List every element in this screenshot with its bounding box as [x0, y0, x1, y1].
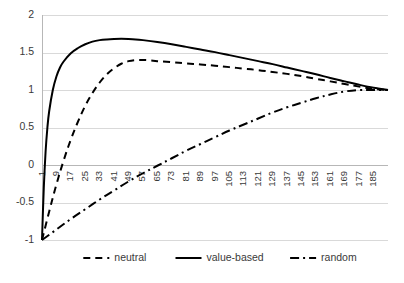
chart-container: 21.510.50-0.5-1 191725334149576573818997… [0, 0, 404, 283]
y-tick-label: -0.5 [16, 195, 34, 207]
x-tick-label: 17 [64, 171, 75, 182]
x-tick-label: 137 [281, 171, 292, 187]
legend-item-value-based[interactable]: value-based [176, 251, 264, 263]
legend-item-neutral[interactable]: neutral [83, 251, 146, 263]
x-tick-label: 41 [108, 171, 119, 182]
y-tick-label: 1.5 [19, 45, 34, 57]
line-chart: 21.510.50-0.5-1 191725334149576573818997… [0, 0, 404, 283]
x-tick-label: 73 [165, 171, 176, 182]
x-tick-label: 33 [93, 171, 104, 182]
gridlines-group [42, 16, 388, 241]
y-tick-label: 0 [28, 158, 34, 170]
x-tick-label: 177 [353, 171, 364, 187]
x-tick-label: 145 [295, 171, 306, 187]
x-tick-label: 169 [338, 171, 349, 187]
axes-group [42, 15, 388, 240]
x-tick-label: 81 [180, 171, 191, 182]
x-axis-tick-labels: 1917253341495765738189971051131211291371… [36, 171, 379, 187]
y-tick-label: -1 [25, 233, 34, 245]
legend-label-value-based: value-based [207, 251, 264, 263]
x-tick-label: 49 [122, 171, 133, 182]
x-tick-label: 97 [209, 171, 220, 182]
x-tick-label: 121 [252, 171, 263, 187]
x-tick-label: 105 [223, 171, 234, 187]
x-tick-label: 89 [194, 171, 205, 182]
x-tick-label: 65 [151, 171, 162, 182]
y-tick-label: 1 [28, 83, 34, 95]
x-tick-label: 25 [79, 171, 90, 182]
legend: neutralvalue-basedrandom [83, 251, 357, 263]
x-tick-label: 185 [367, 171, 378, 187]
series-line-value-based [42, 39, 388, 240]
y-axis-tick-labels: 21.510.50-0.5-1 [16, 8, 34, 245]
y-tick-label: 2 [28, 8, 34, 20]
x-tick-label: 161 [324, 171, 335, 187]
x-tick-label: 153 [309, 171, 320, 187]
x-tick-label: 113 [237, 171, 248, 186]
series-group [42, 39, 388, 240]
series-line-neutral [42, 60, 388, 240]
legend-item-random[interactable]: random [290, 251, 357, 263]
legend-label-random: random [321, 251, 357, 263]
x-tick-label: 129 [266, 171, 277, 187]
y-tick-label: 0.5 [19, 120, 34, 132]
series-line-random [42, 90, 388, 240]
legend-label-neutral: neutral [114, 251, 146, 263]
